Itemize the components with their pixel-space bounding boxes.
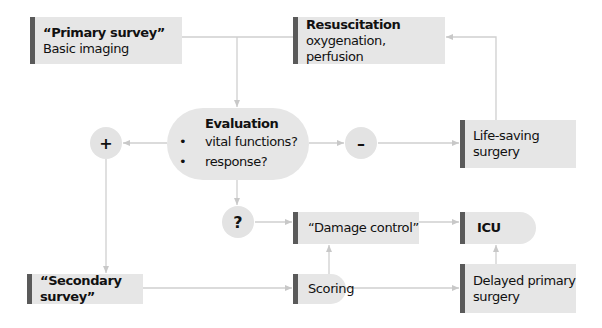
bullet-icon: • — [179, 132, 205, 152]
node-title: ICU — [477, 220, 536, 236]
list-item: • response? — [179, 152, 309, 172]
list-item-text: vital functions? — [205, 132, 298, 152]
node-life-saving-surgery: Life-saving surgery — [460, 120, 576, 168]
bullet-icon: • — [179, 152, 205, 172]
node-subtitle: oxygenation, perfusion — [306, 33, 445, 65]
node-title: “Primary survey” — [43, 25, 182, 41]
node-line-2: surgery — [473, 289, 576, 305]
node-title: Scoring — [308, 281, 346, 297]
node-icu: ICU — [460, 212, 536, 244]
node-line-2: surgery — [473, 144, 576, 160]
node-scoring: Scoring — [293, 274, 346, 304]
minus-icon: – — [357, 134, 365, 153]
node-damage-control: “Damage control” — [293, 212, 419, 244]
plus-icon: + — [99, 134, 112, 153]
node-title: Evaluation — [179, 115, 309, 132]
node-resuscitation: Resuscitation oxygenation, perfusion — [293, 17, 445, 64]
list-item-text: response? — [205, 152, 267, 172]
node-primary-survey: “Primary survey” Basic imaging — [30, 17, 182, 64]
node-line-1: Delayed primary — [473, 273, 576, 289]
node-title: “Damage control” — [308, 220, 419, 236]
node-subtitle: Basic imaging — [43, 41, 182, 57]
node-uncertain-question-icon: ? — [222, 206, 254, 238]
node-positive-plus-icon: + — [90, 127, 122, 159]
node-delayed-primary-surgery: Delayed primary surgery — [460, 264, 576, 313]
question-icon: ? — [233, 213, 242, 232]
node-title: “Secondary survey” — [40, 273, 143, 305]
list-item: • vital functions? — [179, 132, 309, 152]
edge-lifesaving-resuscitation — [446, 37, 496, 120]
node-secondary-survey: “Secondary survey” — [27, 274, 143, 304]
node-title: Resuscitation — [306, 17, 445, 33]
node-negative-minus-icon: – — [345, 127, 377, 159]
node-evaluation: Evaluation • vital functions? • response… — [167, 108, 309, 180]
node-line-1: Life-saving — [473, 128, 576, 144]
